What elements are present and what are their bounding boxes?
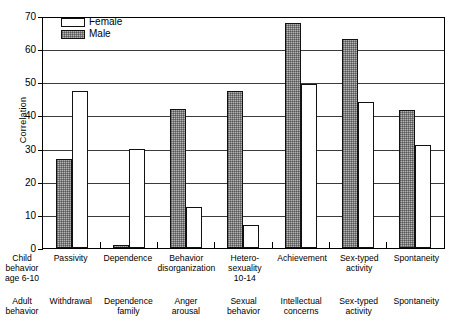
y-axis-tick-30: 30: [2, 146, 36, 154]
bar-group: [43, 17, 100, 248]
child-label-4: Hetero-sexuality10-14: [216, 253, 273, 284]
bar-female: [415, 145, 431, 248]
adult-label-5: Intellectualconcerns: [272, 296, 330, 316]
y-axis-tick-0: 0: [2, 245, 36, 253]
bar-female: [186, 207, 202, 248]
bar-female: [72, 91, 88, 248]
child-behavior-labels: PassivityDependenceBehaviordisorganizati…: [42, 253, 445, 284]
bar-male: [285, 23, 301, 248]
y-axis-tick-50: 50: [2, 79, 36, 87]
bar-pair: [227, 91, 259, 248]
bar-group: [100, 17, 157, 248]
child-label-1: Passivity: [42, 253, 99, 284]
bar-pair: [399, 110, 431, 248]
bar-female: [301, 84, 317, 248]
legend-item: Male: [61, 29, 122, 39]
y-axis-tick-60: 60: [2, 46, 36, 54]
bar-male: [399, 110, 415, 248]
y-axis-tick-70: 70: [2, 13, 36, 21]
bar-chart-figure: Correlation 010203040506070 FemaleMale C…: [0, 0, 451, 334]
bar-pair: [56, 91, 88, 248]
adult-label-3: Angerarousal: [157, 296, 215, 316]
y-axis-tick-labels: 010203040506070: [0, 0, 36, 334]
bar-female: [129, 149, 145, 248]
adult-label-6: Sex-typedactivity: [330, 296, 388, 316]
bar-group: [387, 17, 444, 248]
bar-pair: [170, 109, 202, 248]
bar-female: [358, 102, 374, 248]
bar-group: [215, 17, 272, 248]
legend-swatch-male: [61, 30, 85, 39]
bar-group: [158, 17, 215, 248]
child-label-3: Behaviordisorganization: [156, 253, 216, 284]
bar-pair: [285, 23, 317, 248]
y-axis-tick-20: 20: [2, 179, 36, 187]
y-axis-tick-10: 10: [2, 212, 36, 220]
child-behavior-row-title: Childbehaviorage 6-10: [0, 253, 44, 284]
adult-behavior-row-title: Adultbehavior: [0, 296, 44, 316]
child-label-2: Dependence: [99, 253, 156, 284]
adult-label-2: Dependencefamily: [100, 296, 158, 316]
adult-label-7: Spontaneity: [387, 296, 445, 316]
adult-label-1: Withdrawal: [42, 296, 100, 316]
child-label-7: Spontaneity: [388, 253, 445, 284]
legend-label-male: Male: [89, 29, 111, 39]
legend-swatch-female: [61, 18, 85, 27]
bar-male: [227, 91, 243, 248]
bar-female: [243, 225, 259, 248]
bar-male: [56, 159, 72, 248]
bar-groups: [43, 17, 444, 248]
bar-male: [170, 109, 186, 248]
legend-item: Female: [61, 17, 122, 27]
adult-label-4: Sexualbehavior: [215, 296, 273, 316]
legend-label-female: Female: [89, 17, 122, 27]
adult-behavior-labels: WithdrawalDependencefamilyAngerarousalSe…: [42, 296, 445, 316]
legend: FemaleMale: [58, 15, 126, 41]
bar-male: [342, 39, 358, 248]
bar-pair: [342, 39, 374, 248]
y-tick-mark: [38, 249, 43, 250]
bar-pair: [113, 149, 145, 248]
bar-group: [329, 17, 386, 248]
child-label-6: Sex-typedactivity: [331, 253, 388, 284]
plot-area: [42, 17, 445, 249]
bar-group: [272, 17, 329, 248]
y-axis-tick-40: 40: [2, 112, 36, 120]
child-label-5: Achievement: [273, 253, 330, 284]
bar-male: [113, 245, 129, 248]
